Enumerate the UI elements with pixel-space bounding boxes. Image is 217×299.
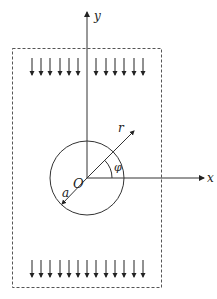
origin-label: O: [73, 176, 84, 191]
phi-label: φ: [114, 161, 122, 174]
x-axis-label: x: [207, 171, 214, 185]
radial-line-r: [87, 131, 134, 178]
bottom-load-arrows: [32, 260, 143, 277]
plate-with-hole-diagram: y x O r a φ: [0, 0, 217, 299]
a-label: a: [62, 186, 69, 200]
r-label: r: [118, 121, 125, 135]
y-axis-label: y: [93, 9, 101, 23]
angle-arc-phi: [105, 160, 112, 178]
